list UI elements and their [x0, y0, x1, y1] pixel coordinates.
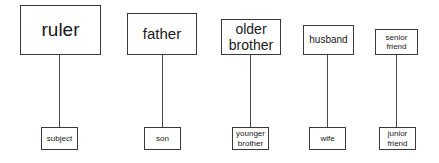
node-label-line1: senior: [386, 33, 408, 42]
node-older-brother: older brother: [221, 19, 281, 55]
node-label-line2: brother: [238, 139, 263, 148]
node-senior-friend: senior friend: [375, 29, 418, 55]
connector-ruler-subject: [59, 55, 60, 127]
node-label-line2: friend: [387, 139, 407, 148]
node-label: wife: [320, 134, 334, 143]
node-label-line2: friend: [386, 42, 406, 51]
node-father: father: [127, 13, 197, 55]
node-label: husband: [309, 34, 347, 46]
node-label: son: [156, 134, 169, 143]
node-subject: subject: [41, 127, 78, 150]
node-label-line1: older: [235, 21, 266, 37]
node-label-line1: junior: [388, 129, 408, 138]
node-younger-brother: younger brother: [232, 127, 269, 150]
node-label: ruler: [41, 19, 79, 41]
node-label-line2: brother: [229, 37, 273, 53]
connector-husband-wife: [327, 55, 328, 127]
node-label: subject: [47, 134, 72, 143]
node-label-line1: younger: [236, 129, 265, 138]
node-husband: husband: [303, 25, 354, 55]
connector-older-younger-brother: [250, 55, 251, 127]
node-wife: wife: [309, 127, 346, 150]
connector-father-son: [162, 55, 163, 127]
node-junior-friend: junior friend: [379, 127, 416, 150]
connector-senior-junior-friend: [396, 55, 397, 127]
node-label: father: [143, 25, 181, 42]
node-son: son: [144, 127, 181, 150]
node-ruler: ruler: [20, 5, 101, 55]
